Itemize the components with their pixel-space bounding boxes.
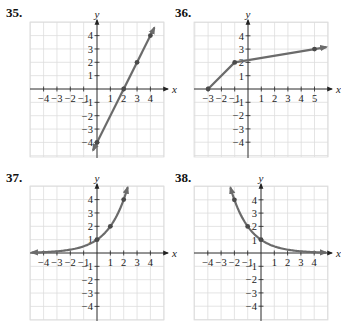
plotted-point <box>232 197 237 202</box>
x-tick-label: 2 <box>285 257 290 268</box>
y-tick-label: −2 <box>246 274 257 285</box>
x-axis-label: x <box>335 247 341 259</box>
x-tick-label: −2 <box>229 257 240 268</box>
x-tick-label: −3 <box>216 257 227 268</box>
y-axis-label: y <box>258 172 264 184</box>
y-tick-label: 4 <box>252 195 258 206</box>
x-tick-label: 3 <box>298 257 303 268</box>
x-tick-label: 1 <box>272 257 277 268</box>
graph-curve <box>230 188 326 253</box>
y-tick-label: 2 <box>252 221 257 232</box>
axes: xy−4−3−2−11234−4−3−2−11234 <box>194 172 341 321</box>
y-tick-label: −1 <box>246 261 257 272</box>
y-tick-label: −4 <box>246 301 258 312</box>
y-tick-label: 3 <box>252 208 257 219</box>
x-tick-label: −4 <box>202 257 214 268</box>
plotted-point <box>259 237 264 242</box>
y-tick-label: −3 <box>246 288 257 299</box>
plotted-point <box>245 224 250 229</box>
x-tick-label: 4 <box>312 257 318 268</box>
graph-38-plot: xy−4−3−2−11234−4−3−2−11234 <box>0 0 341 327</box>
